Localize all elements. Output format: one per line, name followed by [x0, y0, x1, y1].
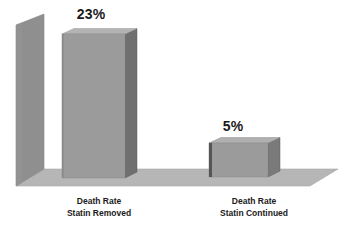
category-label-line-2: Statin Removed — [34, 207, 164, 219]
bar-death-rate-statin-continued — [209, 138, 280, 178]
category-label-line-2: Statin Continued — [180, 207, 328, 219]
category-label-line-1: Death Rate — [34, 195, 164, 207]
chart-back-wall — [16, 14, 44, 186]
bar-value-label-1: 5% — [208, 118, 258, 134]
bar-chart-figure: 23% 5% Death Rate Statin Removed Death R… — [0, 0, 348, 233]
bar-value-label-0: 23% — [64, 6, 118, 22]
category-label-statin-removed: Death Rate Statin Removed — [34, 195, 164, 219]
category-label-line-1: Death Rate — [180, 195, 328, 207]
category-label-statin-continued: Death Rate Statin Continued — [180, 195, 328, 219]
bar-death-rate-statin-removed — [62, 29, 137, 179]
